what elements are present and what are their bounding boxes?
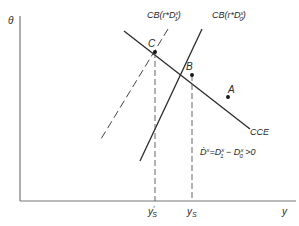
cb1-label: CB(r*Dx1) xyxy=(147,10,181,22)
ys-label: yS xyxy=(186,206,197,218)
annotation-dx: Ḋx=Dx1 − Dx0 >0 xyxy=(200,147,255,159)
point-b xyxy=(190,73,194,77)
diagram-canvas: θ y CCE CB(r*Dx0) CB(r*Dx1) C B A y′S yS… xyxy=(0,0,299,226)
point-b-label: B xyxy=(186,61,193,72)
cb0-label: CB(r*Dx0) xyxy=(212,10,246,22)
cce-label: CCE xyxy=(250,127,270,137)
y-axis-label: θ xyxy=(8,15,14,26)
point-a xyxy=(226,95,230,99)
x-axis-label: y xyxy=(281,206,288,217)
ys-prime-label: y′S xyxy=(147,205,157,218)
point-a-label: A xyxy=(227,84,235,95)
point-c-label: C xyxy=(148,38,156,49)
point-c xyxy=(153,50,157,54)
cce-line xyxy=(124,31,250,129)
